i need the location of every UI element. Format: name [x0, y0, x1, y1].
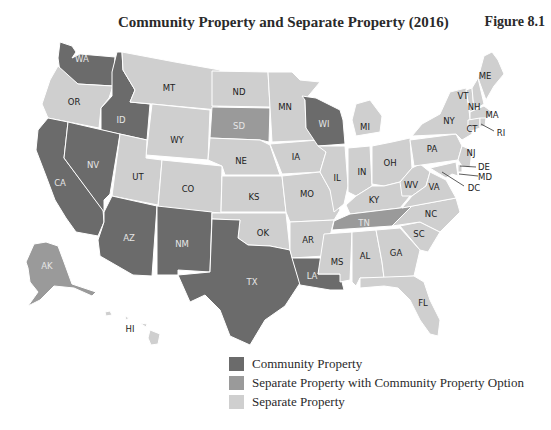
label-OK: OK	[257, 228, 270, 238]
label-SD: SD	[233, 121, 245, 131]
label-MS: MS	[331, 257, 344, 267]
label-RI: RI	[497, 128, 505, 138]
state-WY[interactable]	[146, 104, 210, 160]
legend-item-separate-property: Separate Property	[229, 392, 524, 411]
swatch-separate-property-option	[229, 376, 244, 390]
legend-label: Community Property	[252, 356, 362, 372]
label-AL: AL	[360, 251, 371, 261]
label-FL: FL	[418, 298, 428, 308]
label-WI: WI	[319, 119, 330, 129]
label-MA: MA	[485, 110, 498, 120]
label-AK: AK	[41, 261, 53, 271]
swatch-community-property	[229, 357, 244, 371]
label-KY: KY	[369, 195, 380, 205]
label-NV: NV	[87, 160, 99, 170]
state-FL[interactable]	[360, 276, 440, 336]
label-DE: DE	[478, 162, 490, 172]
label-NE: NE	[235, 156, 247, 166]
label-ID: ID	[116, 115, 126, 125]
label-IN: IN	[358, 167, 367, 177]
label-IA: IA	[292, 152, 301, 162]
map-legend: Community Property Separate Property wit…	[229, 354, 524, 411]
label-PA: PA	[427, 144, 438, 154]
label-IL: IL	[333, 173, 341, 183]
label-WA: WA	[75, 54, 89, 64]
label-CA: CA	[54, 178, 66, 188]
label-MT: MT	[163, 83, 176, 93]
legend-label: Separate Property with Community Propert…	[252, 375, 524, 391]
label-MD: MD	[478, 172, 492, 182]
label-SC: SC	[413, 229, 424, 239]
label-TX: TX	[245, 277, 257, 287]
leader-RI	[481, 124, 494, 131]
label-WY: WY	[170, 135, 184, 145]
label-AZ: AZ	[123, 233, 135, 243]
label-MO: MO	[300, 189, 314, 199]
label-NY: NY	[443, 116, 455, 126]
state-MT[interactable]	[122, 52, 220, 110]
label-VA: VA	[428, 182, 439, 192]
label-NM: NM	[175, 239, 189, 249]
legend-label: Separate Property	[252, 394, 345, 410]
label-TN: TN	[357, 218, 370, 228]
label-OR: OR	[68, 97, 81, 107]
state-DE[interactable]	[458, 164, 462, 172]
label-MI: MI	[360, 122, 370, 132]
label-LA: LA	[307, 271, 318, 281]
label-ND: ND	[233, 87, 246, 97]
label-VT: VT	[457, 91, 469, 101]
swatch-separate-property	[229, 395, 244, 409]
label-OH: OH	[383, 158, 396, 168]
label-UT: UT	[132, 172, 144, 182]
legend-item-separate-property-option: Separate Property with Community Propert…	[229, 373, 524, 392]
label-NC: NC	[425, 209, 437, 219]
label-WV: WV	[404, 180, 418, 190]
label-CO: CO	[182, 184, 195, 194]
label-GA: GA	[390, 248, 403, 258]
label-HI: HI	[126, 324, 135, 334]
label-NJ: NJ	[467, 148, 476, 158]
label-AR: AR	[302, 235, 314, 245]
label-MN: MN	[278, 102, 292, 112]
label-KS: KS	[249, 192, 260, 202]
label-DC: DC	[468, 183, 481, 193]
legend-item-community-property: Community Property	[229, 354, 524, 373]
label-NH: NH	[468, 102, 481, 112]
leader-MD	[459, 174, 478, 176]
state-AK[interactable]	[26, 242, 96, 306]
label-CT: CT	[466, 124, 478, 134]
label-ME: ME	[479, 71, 492, 81]
